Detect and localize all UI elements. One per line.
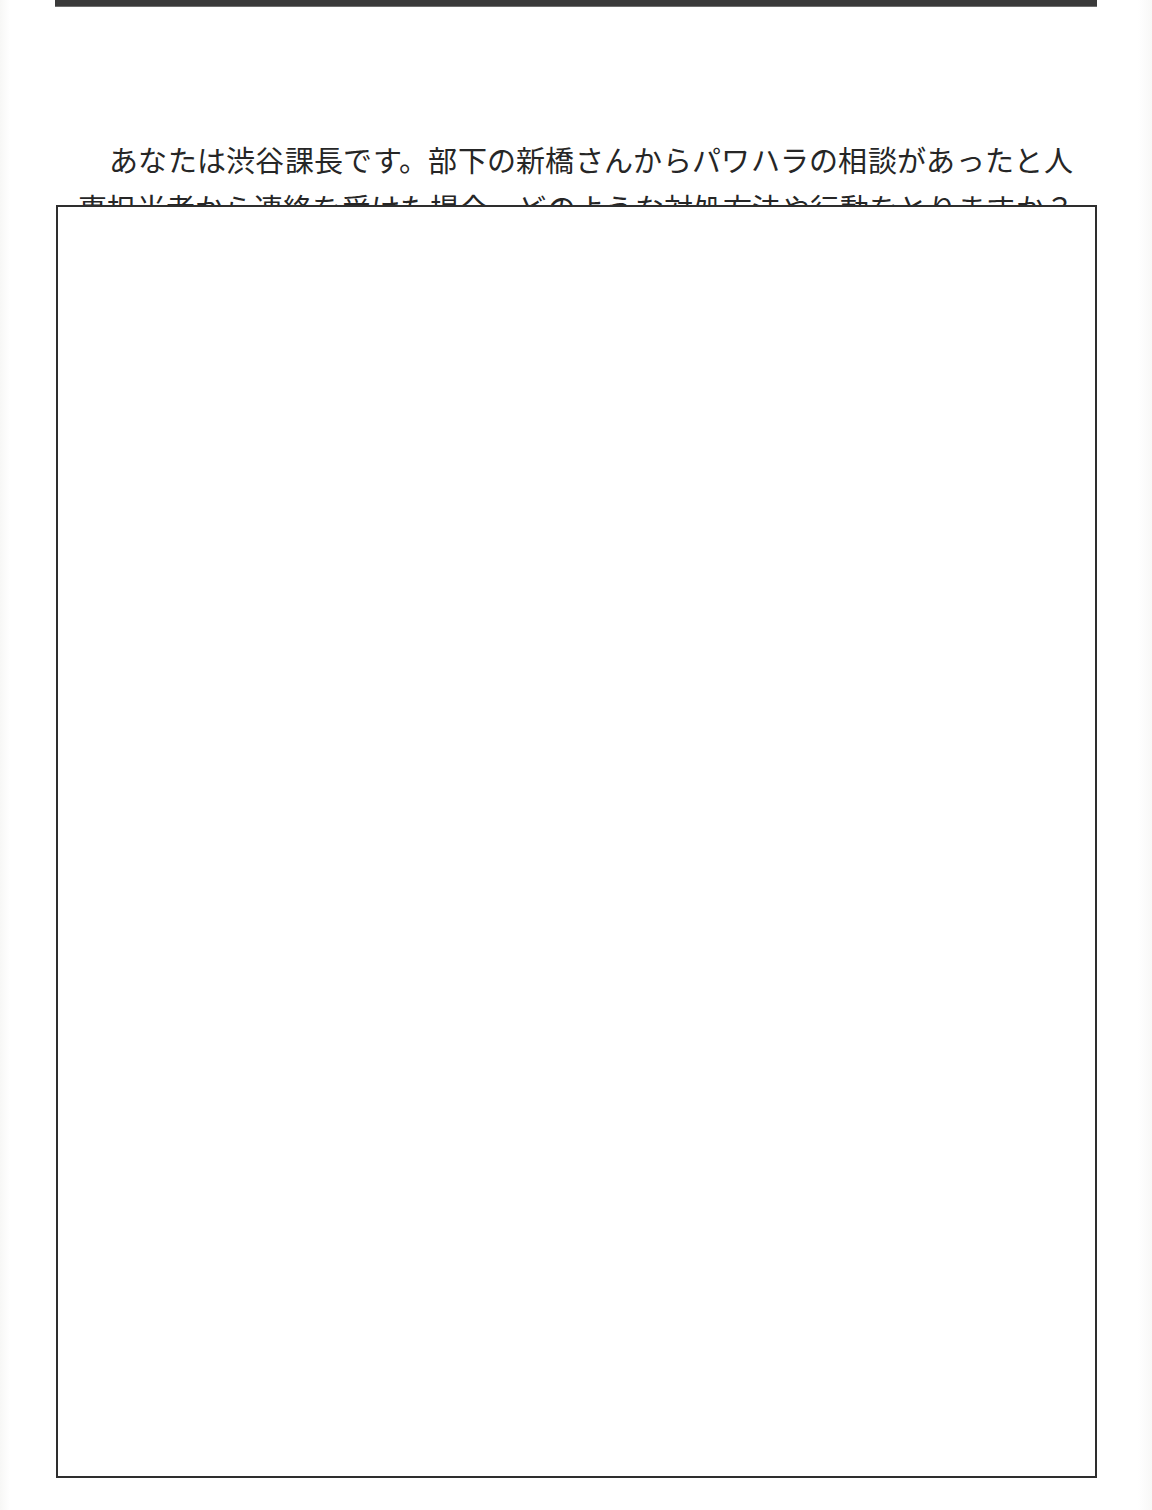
- scan-edge-left: [0, 0, 10, 1510]
- answer-box-writing-area[interactable]: [58, 207, 1095, 1476]
- header-horizontal-rule: [55, 0, 1097, 6]
- scan-edge-right: [1138, 0, 1152, 1510]
- document-page: あなたは渋谷課長です。部下の新橋さんからパワハラの相談があったと人事担当者から連…: [0, 0, 1152, 1510]
- answer-box[interactable]: [56, 205, 1097, 1478]
